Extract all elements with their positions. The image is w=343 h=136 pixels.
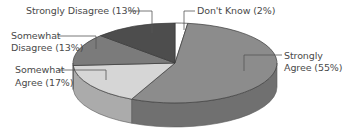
label-strongly-agree-line1: Strongly bbox=[284, 50, 323, 62]
label-somewhat-disagree-line2: Disagree (13%) bbox=[11, 42, 83, 54]
pie-top-slices bbox=[73, 23, 277, 103]
label-somewhat-disagree-line1: Somewhat bbox=[11, 30, 60, 42]
label-strongly-disagree: Strongly Disagree (13%) bbox=[26, 5, 140, 17]
label-dont-know: Don't Know (2%) bbox=[197, 5, 275, 17]
label-somewhat-agree-line2: Agree (17%) bbox=[15, 77, 73, 89]
label-strongly-agree-line2: Agree (55%) bbox=[284, 62, 342, 74]
label-somewhat-agree-line1: Somewhat bbox=[15, 64, 64, 76]
